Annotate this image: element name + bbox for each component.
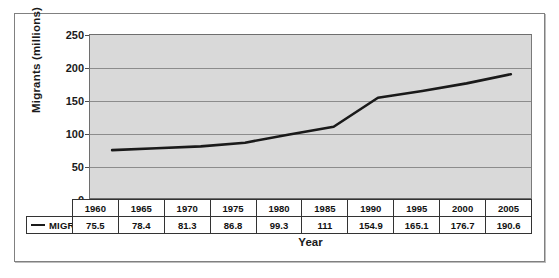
- plot-area: [89, 34, 532, 199]
- y-tick-label-100: 100: [54, 129, 84, 140]
- chart-frame: Migrants (millions) 250 200 150 100 50 0: [14, 13, 545, 262]
- value-cell: 111: [302, 217, 348, 234]
- value-cell: 78.4: [118, 217, 164, 234]
- y-tick-label-200: 200: [54, 63, 84, 74]
- year-header-cell: 1995: [394, 200, 440, 217]
- value-cell: 176.7: [440, 217, 486, 234]
- year-header-cell: 1980: [256, 200, 302, 217]
- x-axis-title: Year: [89, 236, 532, 248]
- table-row-years: 1960 1965 1970 1975 1980 1985 1990 1995 …: [27, 200, 532, 217]
- value-cell: 99.3: [256, 217, 302, 234]
- value-cell: 86.8: [210, 217, 256, 234]
- year-header-cell: 1960: [72, 200, 118, 217]
- year-header-cell: 1965: [118, 200, 164, 217]
- year-header-cell: 1985: [302, 200, 348, 217]
- y-tick-label-50: 50: [54, 162, 84, 173]
- legend-label: MIGRANTS: [49, 220, 72, 231]
- year-header-cell: 1970: [164, 200, 210, 217]
- migrants-line-series: [90, 35, 533, 200]
- table-row-values: MIGRANTS 75.5 78.4 81.3 86.8 99.3 111 15…: [27, 217, 532, 234]
- value-cell: 190.6: [486, 217, 532, 234]
- year-header-cell: 2000: [440, 200, 486, 217]
- legend-entry-migrants: MIGRANTS: [27, 217, 73, 234]
- value-cell: 81.3: [164, 217, 210, 234]
- year-header-cell: 1990: [348, 200, 394, 217]
- line-swatch-icon: [31, 224, 45, 226]
- value-cell: 154.9: [348, 217, 394, 234]
- y-tick-label-150: 150: [54, 96, 84, 107]
- y-tick-label-250: 250: [54, 30, 84, 41]
- table-corner-cell: [27, 200, 73, 217]
- value-cell: 75.5: [72, 217, 118, 234]
- value-cell: 165.1: [394, 217, 440, 234]
- screenshot-root: Migrants (millions) 250 200 150 100 50 0: [0, 0, 559, 278]
- year-header-cell: 2005: [486, 200, 532, 217]
- year-header-cell: 1975: [210, 200, 256, 217]
- data-table: 1960 1965 1970 1975 1980 1985 1990 1995 …: [26, 199, 532, 234]
